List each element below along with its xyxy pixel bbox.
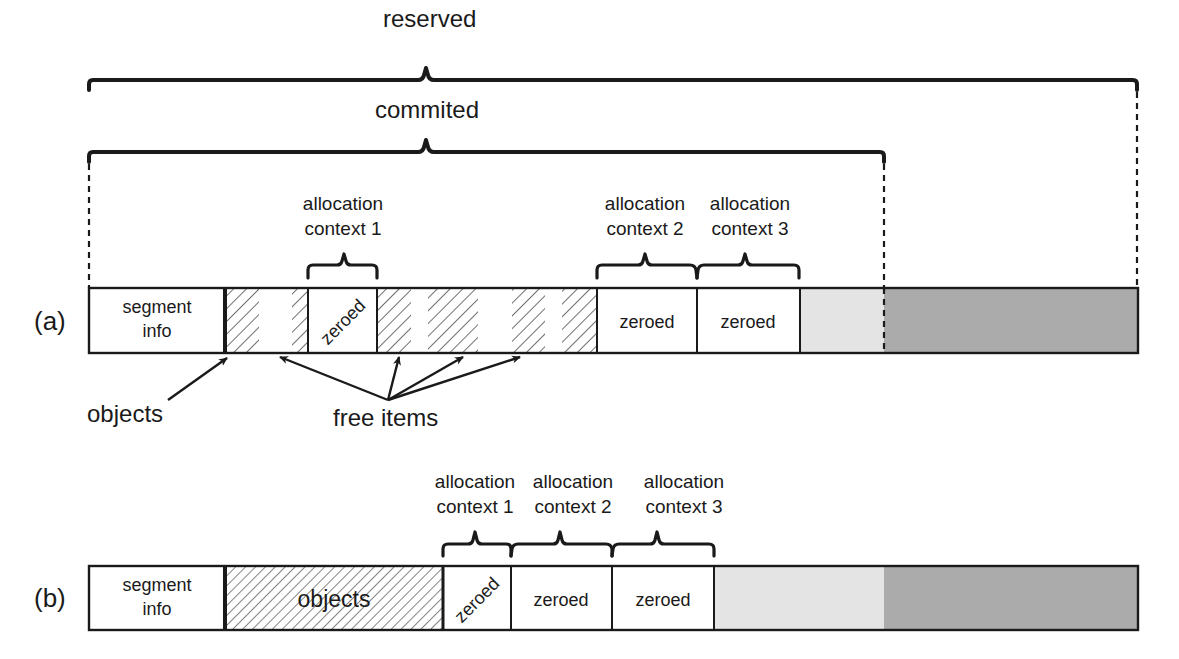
reserved-uncommitted-region: [884, 566, 1138, 630]
objects-arrow: [168, 358, 227, 400]
context-1-brace: [308, 254, 377, 278]
svg-text:context 1: context 1: [304, 218, 381, 239]
row-a-context-1-label: allocation context 1: [303, 193, 383, 278]
reserved-brace: reserved: [89, 5, 1137, 288]
object-block: [562, 288, 596, 353]
row-b-objects-label: objects: [298, 586, 371, 612]
object-block: [377, 288, 411, 353]
free-item-arrow: [280, 357, 388, 400]
svg-text:allocation: allocation: [710, 193, 790, 214]
row-a-context-3-label: allocation context 3: [697, 193, 799, 278]
svg-text:allocation: allocation: [533, 471, 613, 492]
svg-text:context 1: context 1: [436, 496, 513, 517]
row-b-zeroed-context-2: zeroed: [533, 590, 588, 610]
object-block: [225, 288, 259, 353]
context-1-brace: [443, 532, 511, 556]
svg-text:allocation: allocation: [435, 471, 515, 492]
svg-text:context 3: context 3: [711, 218, 788, 239]
object-block: [512, 288, 545, 353]
memory-segment-diagram: reserved commited (a) allocation context…: [0, 0, 1179, 659]
svg-text:allocation: allocation: [303, 193, 383, 214]
context-2-brace: [597, 254, 697, 278]
context-3-brace: [612, 532, 714, 556]
svg-text:allocation: allocation: [644, 471, 724, 492]
row-b-context-2-label: allocation context 2: [511, 471, 613, 556]
row-b-zeroed-context-3: zeroed: [635, 590, 690, 610]
reserved-label: reserved: [383, 5, 476, 32]
context-3-brace: [697, 254, 799, 278]
svg-text:segment: segment: [122, 297, 191, 317]
svg-text:context 2: context 2: [534, 496, 611, 517]
svg-text:context 3: context 3: [645, 496, 722, 517]
svg-text:context 2: context 2: [606, 218, 683, 239]
committed-unused-region: [714, 566, 884, 630]
object-block: [428, 288, 478, 353]
free-items-annotation: free items: [280, 357, 520, 431]
svg-text:info: info: [142, 599, 171, 619]
svg-text:segment: segment: [122, 575, 191, 595]
context-2-brace: [511, 532, 612, 556]
row-b-label: (b): [34, 583, 66, 613]
objects-label: objects: [87, 400, 163, 427]
objects-annotation: objects: [87, 358, 227, 427]
row-a-context-2-label: allocation context 2: [597, 193, 697, 278]
committed-label: commited: [375, 96, 479, 123]
svg-text:allocation: allocation: [605, 193, 685, 214]
row-a-label: (a): [34, 306, 66, 336]
row-b: (b) allocation context 1 allocation cont…: [34, 471, 1138, 630]
row-a-zeroed-context-3: zeroed: [720, 312, 775, 332]
committed-unused-region: [800, 288, 884, 353]
object-block: [292, 288, 308, 353]
row-a: (a) allocation context 1 allocation cont…: [34, 193, 1138, 431]
row-b-context-1-label: allocation context 1: [435, 471, 515, 556]
svg-text:info: info: [142, 321, 171, 341]
row-a-zeroed-context-2: zeroed: [619, 312, 674, 332]
row-b-context-3-label: allocation context 3: [612, 471, 724, 556]
free-items-label: free items: [333, 404, 438, 431]
reserved-uncommitted-region: [884, 288, 1138, 353]
